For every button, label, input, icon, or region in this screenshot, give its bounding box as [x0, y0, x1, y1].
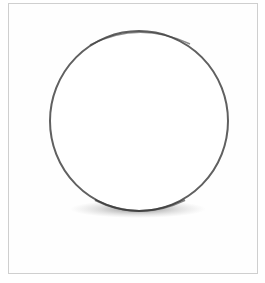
sphere-sketch [0, 0, 265, 283]
sphere-outline [50, 31, 228, 211]
